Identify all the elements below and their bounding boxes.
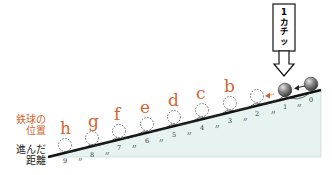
- position-letter-b: b: [224, 76, 235, 96]
- position-letter-c: c: [196, 83, 206, 103]
- ball-position-label-line2: 位置: [4, 125, 46, 136]
- tick-mark: 〃: [214, 121, 221, 131]
- black-motion-arrow-icon: [294, 85, 305, 91]
- steel-ball-current: [278, 83, 292, 97]
- position-letter-h: h: [60, 118, 71, 138]
- distance-mark-8: 8: [90, 151, 94, 159]
- distance-mark-2: 2: [255, 110, 259, 118]
- red-motion-arrow-icon: [265, 93, 274, 99]
- position-letter-f: f: [114, 104, 120, 124]
- tick-mark: 〃: [158, 135, 165, 145]
- distance-mark-5: 5: [172, 131, 176, 139]
- tick-mark: 〃: [77, 154, 84, 164]
- click-box-text: 1 カ チ ッ: [273, 8, 295, 46]
- click-box-line4: ッ: [273, 37, 295, 47]
- ball-position-label-line1: 鉄球の: [4, 114, 46, 125]
- tick-mark: 〃: [131, 141, 138, 151]
- position-letter-d: d: [168, 90, 179, 110]
- distance-mark-9: 9: [63, 157, 67, 165]
- distance-traveled-label: 進んだ 距離: [4, 144, 46, 166]
- steel-ball-start: [304, 77, 318, 91]
- position-letter-g: g: [88, 111, 99, 131]
- distance-mark-0: 0: [309, 96, 313, 104]
- tick-mark: 〃: [270, 107, 277, 117]
- tick-mark: 〃: [242, 114, 249, 124]
- distance-mark-4: 4: [200, 124, 204, 132]
- position-letter-e: e: [140, 97, 150, 117]
- distance-mark-6: 6: [145, 137, 149, 145]
- distance-mark-3: 3: [228, 117, 232, 125]
- distance-label-line2: 距離: [4, 155, 46, 166]
- tick-mark: 〃: [296, 100, 303, 110]
- ball-position-label: 鉄球の 位置: [4, 114, 46, 136]
- distance-mark-1: 1: [283, 103, 287, 111]
- tick-mark: 〃: [104, 148, 111, 158]
- distance-mark-7: 7: [117, 144, 121, 152]
- distance-label-line1: 進んだ: [4, 144, 46, 155]
- tick-mark: 〃: [186, 128, 193, 138]
